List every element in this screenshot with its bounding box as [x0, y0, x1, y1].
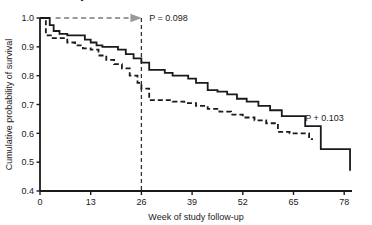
- x-tick-label: 13: [86, 197, 96, 207]
- intervention-arrowhead: [130, 14, 142, 22]
- data-series: [40, 18, 350, 171]
- x-tick-label: 52: [238, 197, 248, 207]
- y-tick-label: 0.9: [21, 42, 34, 52]
- p-value-right: P + 0.103: [305, 113, 344, 123]
- y-tick-label: 0.4: [21, 186, 34, 196]
- y-tick-label: 0.8: [21, 71, 34, 81]
- x-tick-label: 65: [288, 197, 298, 207]
- axes: [37, 18, 353, 195]
- x-tick-label: 26: [136, 197, 146, 207]
- x-tick-label: 0: [37, 197, 42, 207]
- series-solid-group: [40, 18, 350, 171]
- x-tick-label: 78: [339, 197, 349, 207]
- y-tick-label: 0.5: [21, 157, 34, 167]
- y-tick-label: 1.0: [21, 13, 34, 23]
- y-tick-label: 0.6: [21, 129, 34, 139]
- y-axis-title: Cumulative probability of survival: [4, 39, 14, 171]
- annotations: Study interventionP = 0.098P + 0.103: [56, 0, 344, 191]
- x-axis-title: Week of study follow-up: [148, 212, 243, 222]
- x-tick-label: 39: [187, 197, 197, 207]
- survival-chart-figure: Study interventionP = 0.098P + 0.103 0.4…: [0, 0, 372, 225]
- p-value-left: P = 0.098: [149, 13, 188, 23]
- study-intervention-label: Study intervention: [60, 0, 144, 1]
- chart-canvas: Study interventionP = 0.098P + 0.103 0.4…: [0, 0, 372, 225]
- y-tick-label: 0.7: [21, 100, 34, 110]
